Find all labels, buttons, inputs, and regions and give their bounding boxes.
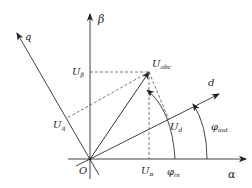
u-beta-label: Uβ <box>72 66 84 79</box>
phi-out-label: φout <box>211 121 228 133</box>
beta-label: β <box>97 13 104 26</box>
origin-point <box>89 158 92 161</box>
d-label: d <box>208 77 214 88</box>
origin-label: O <box>79 165 87 176</box>
vector-diagram: β α q d O Uabc Uβ Uq Ud Uα φin φout <box>0 0 252 188</box>
u-alpha-label: Uα <box>141 165 154 177</box>
q-label: q <box>25 31 31 42</box>
u-d-label: Ud <box>170 121 182 133</box>
u-q-label: Uq <box>53 119 65 132</box>
u-d-projection <box>149 72 169 120</box>
u-abc-vector <box>90 72 149 159</box>
d-axis <box>76 94 219 166</box>
u-abc-label: Uabc <box>152 58 172 70</box>
alpha-label: α <box>228 168 236 181</box>
phi-out-arc <box>193 104 207 159</box>
u-q-projection <box>67 72 149 118</box>
phi-in-label: φin <box>167 166 180 178</box>
